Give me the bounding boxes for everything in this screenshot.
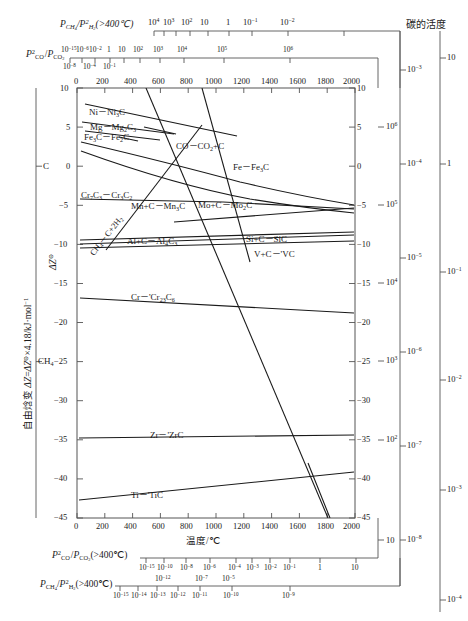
tick-pch4-top-1: 104 bbox=[148, 17, 159, 27]
tick-pch4-bot-2: 10−14 bbox=[131, 591, 146, 600]
tick-right-mid-3: 10−5 bbox=[407, 252, 422, 262]
xtick-bot-1000: 1000 bbox=[205, 521, 222, 531]
xtick-top-1000: 1000 bbox=[205, 76, 222, 86]
tick-pch4-top-4: 10 bbox=[200, 17, 209, 27]
tick-pco-top-8: 104 bbox=[177, 45, 187, 54]
xtick-top-0: 0 bbox=[74, 76, 78, 86]
tick-carbon-1: 10 bbox=[447, 52, 456, 62]
tick-right-inner-6: 10 bbox=[386, 535, 395, 545]
tick-pch4-bot-1: 10−15 bbox=[113, 591, 128, 600]
curve-label-al-c-al4c3: Al+C－Al4C3 bbox=[127, 234, 177, 247]
ytick-left-m5: −5 bbox=[59, 200, 68, 210]
tick-pco-bot-lower-3: 10−5 bbox=[222, 574, 235, 583]
tick-pco-top-9: 105 bbox=[217, 45, 227, 54]
ytick-right-0: 0 bbox=[357, 161, 361, 171]
xtick-top-800: 800 bbox=[180, 76, 193, 86]
xtick-bot-1800: 1800 bbox=[317, 521, 334, 531]
y-axis-outer-label: 自由焓变 ΔZ=ΔZ⊖×4.18/kJ·mol−1 bbox=[20, 298, 34, 430]
tick-pco-top-2: 10−6 bbox=[76, 45, 89, 54]
xtick-top-1400: 1400 bbox=[261, 76, 278, 86]
xtick-top-1600: 1600 bbox=[289, 76, 306, 86]
line-v-c-vc bbox=[80, 241, 354, 248]
x-axis-label: 温度/℃ bbox=[186, 533, 220, 547]
ytick-right-m20: −20 bbox=[357, 317, 370, 327]
xtick-top-600: 600 bbox=[152, 76, 165, 86]
tick-right-mid-4: 10−6 bbox=[407, 346, 422, 356]
tick-pco-bot-10: 10 bbox=[351, 563, 359, 572]
ytick-right-m10: −10 bbox=[357, 239, 370, 249]
tick-right-mid-2: 10−4 bbox=[407, 158, 422, 168]
tick-right-inner-5: 102 bbox=[386, 434, 397, 444]
ytick-right-m15: −15 bbox=[357, 278, 370, 288]
xtick-bot-1400: 1400 bbox=[261, 521, 278, 531]
xtick-top-200: 200 bbox=[96, 76, 109, 86]
curve-label-v-c-vc: V+C－'VC bbox=[254, 247, 295, 260]
axis-right-middle bbox=[400, 31, 406, 586]
tick-pco-bot-2: 10−10 bbox=[157, 563, 172, 572]
xtick-bot-400: 400 bbox=[124, 521, 137, 531]
ytick-left-m45: −45 bbox=[54, 512, 67, 522]
tick-pco-top-6: 102 bbox=[133, 45, 143, 54]
axis-label-pch4-ph2-bottom: PCH4/P2H2(>400℃) bbox=[40, 578, 112, 591]
tick-pco-top-1: 10−15 bbox=[61, 45, 76, 54]
line-cr-cr23c6 bbox=[80, 298, 354, 313]
tick-right-inner-3: 104 bbox=[386, 277, 397, 287]
ytick-right-m25: −25 bbox=[357, 356, 370, 366]
ytick-left-m40: −40 bbox=[54, 473, 67, 483]
axis-label-pch4-ph2-top: PCH4/P2H2(>400℃) bbox=[60, 18, 134, 31]
xtick-bot-1600: 1600 bbox=[289, 521, 306, 531]
tick-pch4-top-6: 10−1 bbox=[243, 17, 258, 27]
xtick-bot-0: 0 bbox=[74, 521, 78, 531]
axis-label-pco-pco2-bottom: P2CO /PCO2(>400℃) bbox=[52, 549, 127, 562]
tick-pco-top-5: 10 bbox=[118, 45, 126, 54]
axis-left-markers bbox=[36, 88, 42, 518]
curve-label-ti-tic: Ti－'TiC bbox=[131, 488, 163, 501]
ytick-right-m30: −30 bbox=[357, 395, 370, 405]
tick-pch4-bot-5: 10−11 bbox=[192, 591, 207, 600]
tick-pco-top-7: 103 bbox=[153, 45, 163, 54]
curve-label-co-co2-c: CO－CO2+C bbox=[176, 139, 224, 152]
figure-root: PCH4/P2H2(>400℃) 104 103 102 10 1 10−1 1… bbox=[0, 0, 468, 621]
tick-pco-top-4: 1 bbox=[107, 45, 111, 54]
ytick-right-5: 5 bbox=[357, 122, 361, 132]
curve-label-zr-zrc: Zr－'ZrC bbox=[150, 428, 184, 441]
left-marker-CH4: CH4 bbox=[38, 356, 54, 367]
carbon-activity-title: 碳的活度 bbox=[406, 16, 446, 31]
axis-right-inner bbox=[378, 127, 384, 540]
line-zr-zrc bbox=[79, 435, 354, 438]
tick-pch4-bot-3: 10−13 bbox=[150, 591, 165, 600]
ytick-left-m10: −10 bbox=[54, 239, 67, 249]
tick-right-mid-6: 10−8 bbox=[407, 534, 422, 544]
left-marker-C: C bbox=[43, 161, 49, 171]
y-axis-ticks bbox=[77, 88, 355, 518]
curve-label-fe-fe3c: Fe－Fe3C bbox=[233, 160, 269, 173]
tick-carbon-4: 10−2 bbox=[447, 374, 462, 384]
tick-pco-bot-4: 10−6 bbox=[203, 563, 216, 572]
ytick-left-0: 0 bbox=[66, 161, 70, 171]
tick-pco-bot-lower-2: 10−7 bbox=[195, 574, 208, 583]
tick-right-mid-5: 10−7 bbox=[407, 440, 422, 450]
curve-label-cr7c3-cr3c2: Cr7C3－Cr3C2 bbox=[81, 188, 132, 201]
xtick-bot-1200: 1200 bbox=[233, 521, 250, 531]
tick-pch4-top-2: 103 bbox=[163, 17, 174, 27]
tick-pch4-top-5: 1 bbox=[226, 17, 230, 27]
plot-frame bbox=[77, 88, 355, 518]
tick-pch4-top-7: 10−2 bbox=[280, 17, 295, 27]
tick-carbon-5: 10−3 bbox=[447, 484, 462, 494]
line-right-drop bbox=[308, 463, 330, 518]
tick-pco-top-3: 10−2 bbox=[89, 45, 102, 54]
curve-label-mo-c-mo2c: Mo+C－Mo2C bbox=[198, 198, 252, 211]
tick-carbon-2: 1 bbox=[447, 158, 451, 168]
tick-right-inner-4: 103 bbox=[386, 355, 397, 365]
tick-right-inner-1: 106 bbox=[386, 121, 397, 131]
axis-label-pch4-ph2-top-text: PCH4/P2H2(>400℃) bbox=[60, 19, 134, 29]
ytick-right-10: 10 bbox=[357, 83, 366, 93]
tick-pch4-bot-7: 10−9 bbox=[282, 591, 295, 600]
ytick-left-m15: −15 bbox=[54, 278, 67, 288]
tick-pco-top-10: 106 bbox=[283, 45, 293, 54]
curve-label-si-c-sic: Si+C－SiC bbox=[246, 232, 287, 245]
axis-label-pco-pco2-top: P2CO /PCO2 bbox=[26, 48, 64, 61]
xtick-top-1800: 1800 bbox=[317, 76, 334, 86]
ytick-left-5: 5 bbox=[66, 122, 70, 132]
ytick-left-10: 10 bbox=[60, 83, 69, 93]
